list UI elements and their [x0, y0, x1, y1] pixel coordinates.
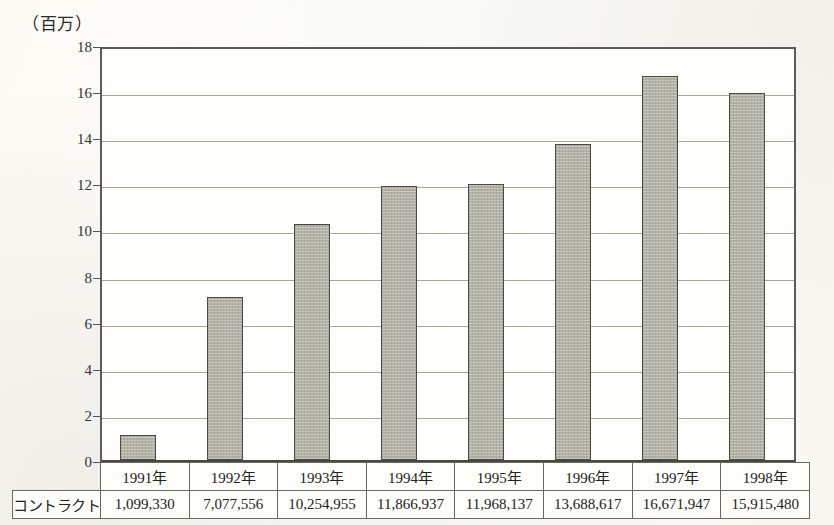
- y-axis-tick-label: 2: [48, 407, 92, 424]
- bar: [207, 297, 243, 460]
- unit-label: （百万）: [22, 10, 92, 35]
- gridline: [102, 141, 794, 142]
- bar: [120, 435, 156, 460]
- y-axis-tick-mark: [93, 324, 100, 325]
- bar: [381, 186, 417, 460]
- y-axis-tick-mark: [93, 416, 100, 417]
- table-value-cell: 13,688,617: [544, 491, 633, 519]
- y-axis-tick-label: 16: [48, 85, 92, 102]
- table-header-cell: 1996年: [544, 463, 633, 491]
- y-axis-tick-mark: [93, 370, 100, 371]
- table-value-cell: 11,968,137: [455, 491, 544, 519]
- y-axis-tick-mark: [93, 231, 100, 232]
- y-axis-tick-label: 10: [48, 223, 92, 240]
- bar: [555, 144, 591, 460]
- y-axis-tick-mark: [93, 278, 100, 279]
- table-value-cell: 1,099,330: [101, 491, 190, 519]
- table-corner-blank: [13, 463, 101, 491]
- table-header-cell: 1998年: [721, 463, 810, 491]
- table-header-cell: 1991年: [101, 463, 190, 491]
- y-axis-tick-label: 4: [48, 361, 92, 378]
- table-row-values: コントラクト 1,099,3307,077,55610,254,95511,86…: [13, 491, 810, 519]
- y-axis-tick-mark: [93, 139, 100, 140]
- bar: [729, 93, 765, 460]
- bar: [642, 76, 678, 460]
- table-row-header: コントラクト: [13, 491, 101, 519]
- table-value-cell: 16,671,947: [632, 491, 721, 519]
- table-row-years: 1991年1992年1993年1994年1995年1996年1997年1998年: [13, 463, 810, 491]
- y-axis-tick-mark: [93, 47, 100, 48]
- table-value-cell: 10,254,955: [278, 491, 367, 519]
- chart-plot-area: [100, 47, 796, 462]
- table-value-cell: 11,866,937: [366, 491, 455, 519]
- data-table: 1991年1992年1993年1994年1995年1996年1997年1998年…: [12, 462, 810, 519]
- table-header-cell: 1997年: [632, 463, 721, 491]
- y-axis-tick-mark: [93, 93, 100, 94]
- table-value-cell: 15,915,480: [721, 491, 810, 519]
- table-value-cell: 7,077,556: [189, 491, 278, 519]
- y-axis-tick-label: 6: [48, 315, 92, 332]
- y-axis-tick-label: 14: [48, 131, 92, 148]
- gridline: [102, 280, 794, 281]
- gridline: [102, 187, 794, 188]
- table-header-cell: 1993年: [278, 463, 367, 491]
- y-axis-tick-label: 12: [48, 177, 92, 194]
- gridline: [102, 233, 794, 234]
- y-axis-tick-mark: [93, 185, 100, 186]
- table-header-cell: 1992年: [189, 463, 278, 491]
- table-header-cell: 1995年: [455, 463, 544, 491]
- bar: [468, 184, 504, 460]
- table-header-cell: 1994年: [366, 463, 455, 491]
- y-axis-tick-label: 8: [48, 269, 92, 286]
- gridline: [102, 95, 794, 96]
- bar: [294, 224, 330, 460]
- y-axis-tick-label: 18: [48, 39, 92, 56]
